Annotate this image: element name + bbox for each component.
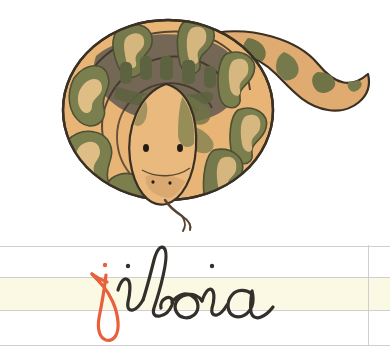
snake-eye-right [177, 144, 183, 152]
cursive-letter-a [228, 290, 273, 317]
cursive-word-jiboia [0, 232, 390, 361]
cursive-letter-j [92, 274, 118, 340]
cursive-letter-i [118, 279, 143, 310]
cursive-dot-i-1 [126, 264, 130, 268]
snake-head [129, 84, 198, 231]
snake-illustration [0, 0, 390, 232]
cursive-dot-j [103, 263, 107, 267]
cursive-dot-i-2 [210, 264, 214, 268]
snake-tongue [165, 200, 191, 231]
snake-eye-left [143, 144, 149, 152]
cursive-letter-b [143, 247, 173, 316]
cursive-letter-i-2 [202, 289, 227, 315]
handwriting-guide-lines [0, 232, 390, 361]
flashcard-page [0, 0, 390, 361]
cursive-letter-o [172, 294, 202, 318]
